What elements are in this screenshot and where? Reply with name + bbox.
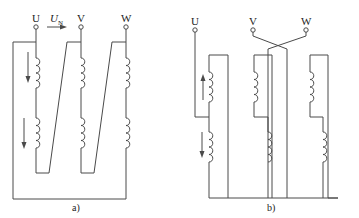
caption-b: b)	[267, 203, 275, 213]
winding-v-a	[81, 29, 126, 173]
terminal-label-w-b: W	[301, 16, 311, 27]
voltage-subscript: N	[58, 19, 63, 27]
crossing-leads	[253, 32, 306, 198]
winding-v-b	[254, 55, 272, 198]
winding-u-b	[195, 32, 228, 198]
terminal-label-w-a: W	[121, 13, 131, 24]
arrow-up-icon	[201, 74, 206, 100]
terminal-v-b	[251, 28, 255, 32]
transformer-winding-diagram	[0, 0, 359, 218]
terminal-v-a	[79, 25, 83, 29]
caption-a: a)	[72, 203, 80, 213]
arrow-down-icon	[22, 118, 27, 149]
winding-w-b	[310, 55, 328, 198]
arrow-down-icon	[26, 52, 31, 83]
terminal-label-v-b: V	[249, 16, 257, 27]
terminal-w-a	[124, 25, 128, 29]
winding-w-a	[126, 29, 130, 199]
terminal-u-b	[193, 28, 197, 32]
diagram-b	[193, 28, 338, 198]
winding-u-a	[13, 29, 126, 199]
voltage-label: UN	[50, 13, 63, 27]
terminal-label-v-a: V	[77, 13, 85, 24]
terminal-w-b	[304, 28, 308, 32]
diagram-a	[13, 25, 130, 200]
terminal-label-u-b: U	[191, 16, 199, 27]
terminal-u-a	[34, 25, 38, 29]
arrow-down-icon	[200, 132, 205, 158]
terminal-label-u-a: U	[32, 13, 40, 24]
winding-v-lower-b	[268, 132, 272, 162]
voltage-symbol: U	[50, 12, 58, 24]
